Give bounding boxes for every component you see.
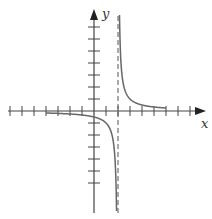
graph: y x [0,0,212,219]
y-axis-arrow-icon [90,9,98,20]
x-axis [8,106,206,116]
x-axis-label: x [201,116,209,131]
y-axis-label: y [101,6,110,21]
curve-left-branch [46,113,117,211]
x-axis-arrow-icon [195,107,206,115]
curve-right-branch [120,15,167,108]
